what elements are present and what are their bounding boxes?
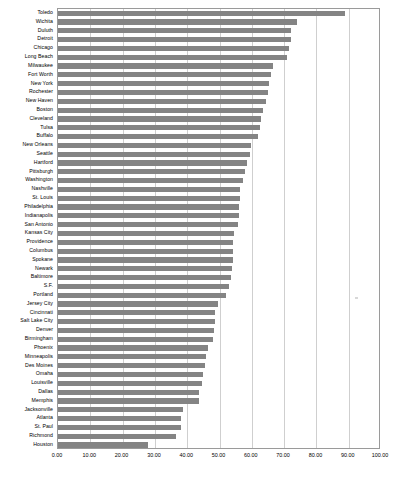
bar-row [58,432,379,441]
bar-row [58,132,379,141]
bar-row [58,44,379,53]
bar-row [58,397,379,406]
bar-chart: ToledoWichitaDuluthDetroitChicagoLong Be… [0,0,398,479]
bar-row [58,238,379,247]
category-label: Pittsburgh [0,167,55,176]
bar-row [58,176,379,185]
category-label: Philadelphia [0,202,55,211]
bar-row [58,88,379,97]
bar-row [58,27,379,36]
category-label: Tulsa [0,123,55,132]
category-label: Columbus [0,246,55,255]
category-label: Cincinnati [0,308,55,317]
bar [58,169,245,174]
bar-row [58,317,379,326]
category-label: Houston [0,440,55,449]
category-label: Providence [0,237,55,246]
bar [58,90,268,95]
bar [58,125,260,130]
bar [58,11,345,16]
bar [58,319,215,324]
bar-row [58,379,379,388]
category-label: Atlanta [0,413,55,422]
bar [58,398,199,403]
bar [58,143,251,148]
category-label: San Antonio [0,220,55,229]
bar-row [58,221,379,230]
bar [58,425,181,430]
bar [58,134,258,139]
bar-row [58,124,379,133]
category-label: Memphis [0,396,55,405]
value-axis-labels: 0.0010.0020.0030.0040.0050.0060.0070.008… [57,452,380,468]
bar [58,328,214,333]
bar [58,442,148,447]
category-axis-labels: ToledoWichitaDuluthDetroitChicagoLong Be… [0,8,55,449]
bar-row [58,388,379,397]
category-label: New Haven [0,96,55,105]
bar-row [58,53,379,62]
category-label: St. Paul [0,422,55,431]
bar [58,249,233,254]
value-tick-label: 50.00 [212,452,226,458]
bar [58,363,205,368]
category-label: Louisville [0,378,55,387]
category-label: Seattle [0,149,55,158]
category-label: Hartford [0,158,55,167]
bar-row [58,362,379,371]
category-label: Wichita [0,17,55,26]
bar [58,55,287,60]
bar [58,354,206,359]
bar [58,196,240,201]
bar [58,178,243,183]
value-tick-label: 100.00 [372,452,389,458]
bar-row [58,80,379,89]
bar [58,416,181,421]
bar-row [58,256,379,265]
bar-row [58,106,379,115]
bar [58,275,231,280]
value-tick-label: 40.00 [179,452,193,458]
bar-row [58,159,379,168]
bar [58,213,239,218]
bar [58,37,291,42]
category-label: Chicago [0,43,55,52]
bar [58,284,229,289]
bar-row [58,71,379,80]
bar-row [58,370,379,379]
bar-row [58,141,379,150]
category-label: Cleveland [0,114,55,123]
bar-row [58,203,379,212]
bar-row [58,265,379,274]
bar [58,81,269,86]
bar [58,72,271,77]
bar-row [58,115,379,124]
category-label: Indianapolis [0,211,55,220]
category-label: Long Beach [0,52,55,61]
bar-row [58,229,379,238]
category-label: Dallas [0,387,55,396]
bar-row [58,18,379,27]
bar-row [58,414,379,423]
value-tick-label: 30.00 [147,452,161,458]
category-label: Salt Lake City [0,316,55,325]
bar-row [58,282,379,291]
bar-row [58,97,379,106]
bar [58,257,233,262]
category-label: Omaha [0,369,55,378]
bar [58,204,239,209]
bar-row [58,247,379,256]
bar [58,434,176,439]
category-label: New York [0,79,55,88]
value-tick-label: 80.00 [309,452,323,458]
bar-row [58,344,379,353]
value-tick-label: 10.00 [83,452,97,458]
bar [58,28,291,33]
category-label: Duluth [0,26,55,35]
category-label: New Orleans [0,140,55,149]
bar [58,293,226,298]
bar [58,19,297,24]
bar-row [58,441,379,450]
category-label: Jersey City [0,299,55,308]
category-label: Phoenix [0,343,55,352]
